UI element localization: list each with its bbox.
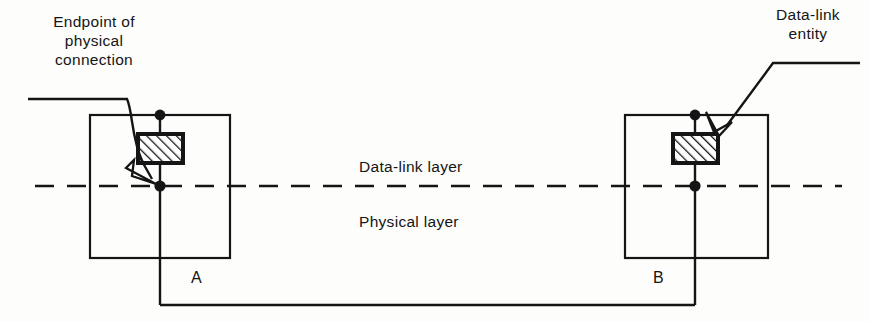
entity-callout-leader-line <box>725 63 860 128</box>
system-a-lower-connection-point <box>154 180 165 191</box>
endpoint-callout-label: Endpoint of physical connection <box>26 12 162 69</box>
datalink-layer-label: Data-link layer <box>359 158 463 176</box>
entity-callout-label: Data-link entity <box>756 5 860 43</box>
system-b-datalink-entity-box <box>673 134 718 163</box>
system-b-upper-connection-point <box>690 110 701 121</box>
system-b-lower-connection-point <box>689 180 700 191</box>
physical-layer-label: Physical layer <box>359 213 459 231</box>
system-a-datalink-entity-box <box>138 134 183 163</box>
diagram-canvas: Endpoint of physical connection Data-lin… <box>0 0 870 322</box>
system-a-label: A <box>191 269 202 287</box>
system-a-upper-connection-point <box>155 110 166 121</box>
system-b-label: B <box>653 269 664 287</box>
